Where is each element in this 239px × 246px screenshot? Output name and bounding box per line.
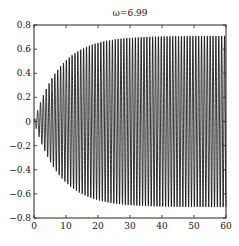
x-tick-label: 30 [124,221,136,231]
x-tick-label: 0 [31,221,37,231]
y-tick-label: −0.4 [9,165,31,175]
signal-line [34,36,226,207]
x-tick-label: 50 [188,221,200,231]
y-tick-label: 0.4 [17,68,32,78]
y-tick-label: 0.8 [17,20,32,30]
chart: ω=6.99 0102030405060 −0.8−0.6−0.4−0.200.… [0,0,239,246]
x-tick-label: 60 [220,221,232,231]
x-tick-label: 20 [92,221,104,231]
plot-area [34,36,226,207]
x-tick-label: 40 [156,221,168,231]
y-tick-label: 0.6 [17,44,32,54]
x-tick-label: 10 [60,221,72,231]
y-tick-label: −0.6 [9,189,31,199]
chart-title: ω=6.99 [113,8,148,18]
y-tick-label: 0 [25,117,31,127]
y-tick-label: −0.2 [9,141,31,151]
y-tick-label: −0.8 [9,213,31,223]
y-tick-label: 0.2 [17,92,31,102]
